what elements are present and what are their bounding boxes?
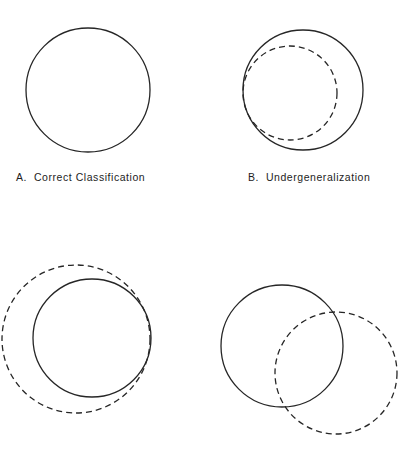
panel-b-learned-circle	[243, 46, 337, 140]
panel-a-caption: A. Correct Classification	[16, 172, 145, 183]
panel-b-caption: B. Undergeneralization	[248, 172, 370, 183]
panel-d-group	[221, 285, 397, 434]
panel-c-learned-circle	[2, 265, 150, 413]
panel-a-group	[26, 28, 150, 152]
diagram-canvas	[0, 0, 414, 450]
panel-c-group	[2, 265, 151, 413]
panel-b-group	[243, 30, 363, 150]
panel-a-target-circle	[26, 28, 150, 152]
panel-c-target-circle	[33, 279, 151, 397]
classification-diagram-figure: A. Correct Classification B. Undergenera…	[0, 0, 414, 450]
panel-d-target-circle	[221, 285, 343, 407]
